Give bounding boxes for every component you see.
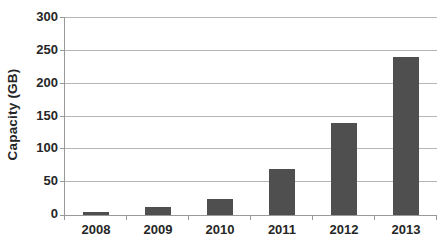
x-tick-label: 2013	[375, 222, 437, 237]
gridline	[65, 116, 437, 117]
x-tick-label: 2012	[313, 222, 375, 237]
x-tick-label: 2010	[189, 222, 251, 237]
x-axis-tick	[436, 215, 437, 220]
gridline	[65, 50, 437, 51]
bar-2011	[269, 169, 295, 215]
y-tick-label: 300	[5, 10, 58, 24]
y-tick-label: 150	[5, 109, 58, 123]
bar-2009	[145, 207, 171, 215]
bar-2013	[393, 57, 419, 215]
x-tick-label: 2011	[251, 222, 313, 237]
x-axis-tick	[188, 215, 189, 220]
x-tick-label: 2008	[65, 222, 127, 237]
x-axis-tick	[374, 215, 375, 220]
bar-2008	[83, 212, 109, 215]
x-axis-tick	[250, 215, 251, 220]
x-tick-label: 2009	[127, 222, 189, 237]
bar-2012	[331, 123, 357, 215]
gridline	[65, 17, 437, 18]
gridline	[65, 83, 437, 84]
x-axis-tick	[312, 215, 313, 220]
y-axis-tick	[60, 83, 65, 84]
y-axis-tick	[60, 181, 65, 182]
y-axis-tick	[60, 148, 65, 149]
gridline	[65, 148, 437, 149]
bar-chart: Capacity (GB) 050100150200250300 2008200…	[0, 0, 443, 249]
y-tick-label: 0	[5, 207, 58, 221]
plot-area	[65, 18, 437, 215]
y-axis-tick	[60, 17, 65, 18]
x-axis-tick	[126, 215, 127, 220]
y-axis-tick	[60, 116, 65, 117]
x-axis-tick	[64, 215, 65, 220]
gridline	[65, 181, 437, 182]
y-tick-label: 200	[5, 76, 58, 90]
bar-2010	[207, 199, 233, 215]
y-tick-label: 250	[5, 43, 58, 57]
y-axis-tick	[60, 50, 65, 51]
y-tick-label: 50	[5, 174, 58, 188]
y-tick-label: 100	[5, 141, 58, 155]
y-axis-line	[64, 18, 65, 216]
